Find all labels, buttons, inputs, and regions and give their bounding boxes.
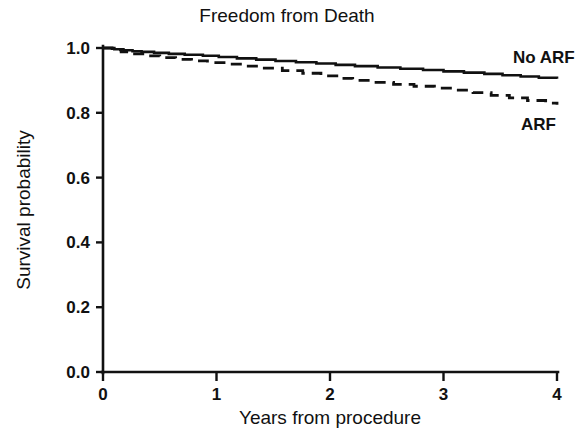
y-tick-label: 0.6 bbox=[66, 169, 90, 188]
x-tick-label: 3 bbox=[439, 385, 448, 404]
y-tick-label: 0.2 bbox=[66, 298, 90, 317]
y-tick-label: 0.0 bbox=[66, 363, 90, 382]
chart-figure: Freedom from Death 0.00.20.40.60.81.0 01… bbox=[0, 0, 575, 429]
x-tick-label: 4 bbox=[552, 385, 562, 404]
series-label-arf: ARF bbox=[521, 115, 556, 134]
y-tick-label: 0.4 bbox=[66, 233, 90, 252]
y-axis-title: Survival probability bbox=[13, 130, 34, 290]
x-tick-label: 2 bbox=[325, 385, 334, 404]
y-tick-label: 0.8 bbox=[66, 104, 90, 123]
chart-title: Freedom from Death bbox=[199, 5, 374, 26]
x-axis-title: Years from procedure bbox=[239, 407, 421, 428]
x-tick-label: 0 bbox=[98, 385, 107, 404]
x-tick-label: 1 bbox=[212, 385, 221, 404]
survival-curve-chart: Freedom from Death 0.00.20.40.60.81.0 01… bbox=[0, 0, 575, 429]
y-tick-label: 1.0 bbox=[66, 39, 90, 58]
series-label-no-arf: No ARF bbox=[513, 48, 575, 67]
